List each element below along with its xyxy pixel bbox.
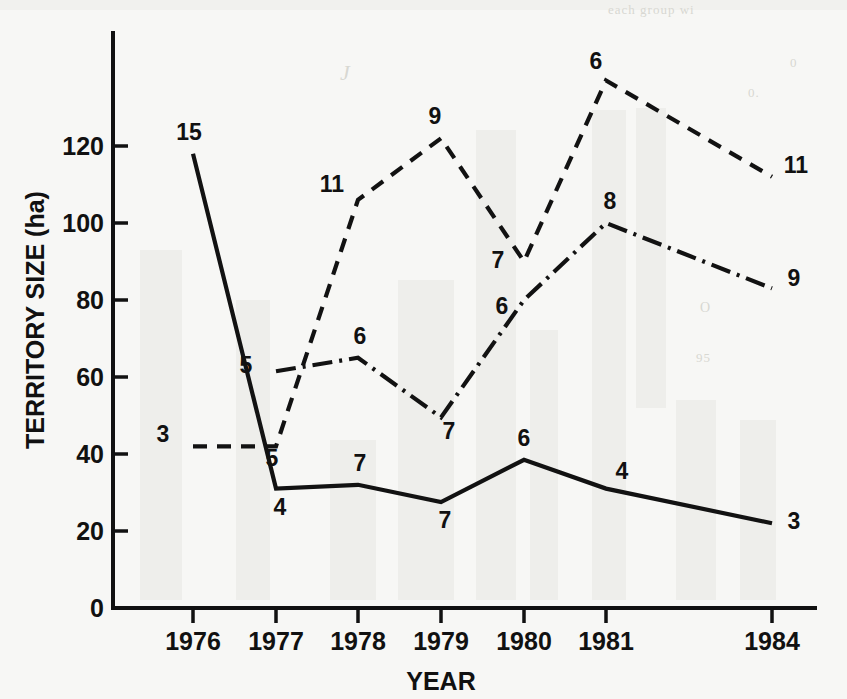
data-point-label: 4 [274, 494, 287, 520]
data-point-label: 7 [443, 418, 456, 444]
series-line-dash-dot [276, 223, 772, 417]
y-axis-title: TERRITORY SIZE (ha) [21, 191, 49, 449]
series-group [193, 81, 772, 524]
data-point-label: 7 [354, 450, 367, 476]
y-tick-label: 40 [76, 440, 104, 468]
data-point-label: 3 [788, 508, 801, 534]
data-point-label: 4 [616, 458, 629, 484]
data-point-label: 5 [240, 352, 253, 378]
data-point-label: 9 [429, 103, 442, 129]
y-tick-label: 0 [90, 594, 104, 622]
data-point-label: 8 [604, 188, 617, 214]
data-point-label: 7 [492, 247, 505, 273]
chart-figure: each group wi 0 0. J O 95 0 20 40 60 80 … [0, 0, 847, 699]
y-tick-label: 80 [76, 286, 104, 314]
x-tick-label: 1977 [248, 627, 304, 655]
point-label-layer: 15477643351197611567689 [157, 48, 809, 535]
x-axis-tick-labels: 1976 1977 1978 1979 1980 1981 1984 [165, 627, 800, 655]
x-tick-label: 1978 [330, 627, 386, 655]
y-tick-label: 120 [62, 132, 104, 160]
y-tick-label: 20 [76, 517, 104, 545]
y-tick-label: 100 [62, 209, 104, 237]
data-point-label: 6 [354, 323, 367, 349]
x-tick-label: 1979 [413, 627, 469, 655]
x-tick-label: 1980 [496, 627, 552, 655]
x-tick-label: 1984 [744, 627, 800, 655]
y-axis-tick-labels: 0 20 40 60 80 100 120 [62, 132, 104, 622]
data-point-label: 6 [590, 48, 603, 74]
x-axis-ticks [193, 608, 772, 623]
data-point-label: 3 [157, 421, 170, 447]
y-axis-ticks [113, 146, 128, 608]
series-line-solid [193, 154, 772, 524]
series-line-dashed [193, 81, 772, 447]
data-point-label: 6 [496, 293, 509, 319]
data-point-label: 5 [266, 445, 279, 471]
x-axis-title: YEAR [406, 667, 475, 695]
y-tick-label: 60 [76, 363, 104, 391]
plot-canvas: 0 20 40 60 80 100 120 TERRITORY SIZE (ha… [0, 0, 847, 699]
data-point-label: 6 [518, 425, 531, 451]
data-point-label: 15 [176, 119, 202, 145]
data-point-label: 11 [320, 171, 345, 197]
data-point-label: 7 [439, 507, 452, 533]
x-tick-label: 1976 [165, 627, 221, 655]
x-tick-label: 1981 [578, 627, 634, 655]
data-point-label: 9 [788, 265, 801, 291]
data-point-label: 11 [784, 152, 809, 178]
